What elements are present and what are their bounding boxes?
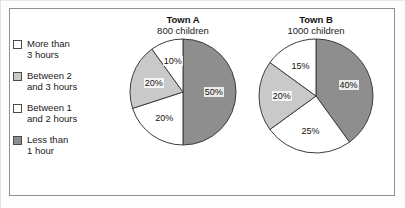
pie-slice-label: 20% — [272, 91, 292, 101]
chart-title: Town B — [250, 14, 382, 25]
legend: More than 3 hours Between 2 and 3 hours … — [13, 38, 97, 156]
pie-slice-label: 20% — [154, 113, 174, 123]
legend-item-less-than-1-hour: Less than 1 hour — [13, 134, 97, 156]
legend-swatch-icon — [13, 40, 22, 49]
pie-chart-figure: More than 3 hours Between 2 and 3 hours … — [0, 0, 405, 208]
legend-item-more-than-3-hours: More than 3 hours — [13, 38, 97, 60]
scan-edge-top — [0, 0, 405, 1]
pie-slice-label: 40% — [339, 80, 359, 90]
scan-edge-left — [0, 0, 1, 208]
legend-item-label: More than 3 hours — [27, 38, 70, 60]
legend-item-label: Between 1 and 2 hours — [27, 102, 77, 124]
pie-b-canvas: 40%25%20%15% — [258, 38, 374, 154]
pie-slice-label: 10% — [163, 56, 183, 66]
pie-slice-label: 50% — [204, 87, 224, 97]
legend-item-between-1-and-2-hours: Between 1 and 2 hours — [13, 102, 97, 124]
legend-item-label: Less than 1 hour — [27, 134, 68, 156]
chart-subtitle: 1000 children — [250, 25, 382, 37]
pie-slice-label: 20% — [144, 78, 164, 88]
pie-slice-label: 25% — [300, 126, 320, 136]
legend-item-label: Between 2 and 3 hours — [27, 70, 77, 92]
pie-a-canvas: 50%20%20%10% — [129, 38, 237, 146]
legend-swatch-icon — [13, 104, 22, 113]
pie-slice-label: 15% — [290, 61, 310, 71]
legend-item-between-2-and-3-hours: Between 2 and 3 hours — [13, 70, 97, 92]
legend-swatch-icon — [13, 72, 22, 81]
pie-chart-town-a: Town A 800 children 50%20%20%10% — [118, 14, 248, 146]
chart-title: Town A — [118, 14, 248, 25]
chart-subtitle: 800 children — [118, 25, 248, 37]
pie-chart-town-b: Town B 1000 children 40%25%20%15% — [250, 14, 382, 154]
legend-swatch-icon — [13, 136, 22, 145]
